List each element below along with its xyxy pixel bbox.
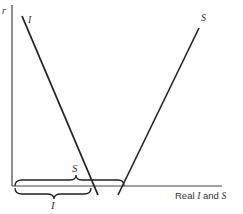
y-axis-label: r [2,5,6,16]
saving-brace-label: S [72,162,78,174]
is-diagram: r I S S I Real I and S [0,0,243,214]
saving-brace [15,175,124,186]
investment-brace [15,188,91,199]
saving-line [118,28,199,195]
investment-curve-label: I [27,14,32,25]
x-axis-label: Real I and S [175,190,227,201]
saving-curve-label: S [201,12,206,23]
investment-line [22,16,98,195]
investment-brace-label: I [50,199,56,211]
